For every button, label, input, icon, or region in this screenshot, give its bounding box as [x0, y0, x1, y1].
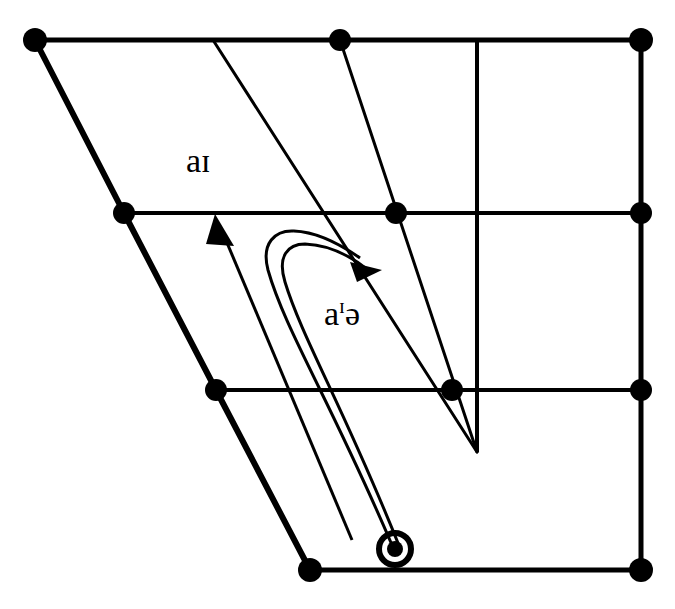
left-edge-segment-2 — [124, 213, 216, 390]
label-triphthong-aie: aɪə — [324, 297, 360, 331]
figure-canvas: aɪ aɪə — [0, 0, 675, 609]
left-edge-segment-1 — [35, 40, 124, 213]
label-diphthong-ai: aɪ — [186, 144, 211, 178]
label-aie-base: a — [324, 295, 339, 332]
target-center-dot-icon — [387, 541, 403, 557]
vertex-dot-top-mid — [329, 29, 351, 51]
vertex-dot-bottom-left — [298, 558, 322, 582]
loop-inner-stroke — [282, 244, 400, 548]
vertex-dot-mid-center — [385, 202, 407, 224]
arrow-straight-offglide — [206, 214, 352, 540]
vertex-dot-mid-left — [113, 202, 135, 224]
vertex-dot-mid-right — [630, 202, 652, 224]
vertex-dot-low-center — [441, 379, 463, 401]
vertex-dot-top-right — [629, 28, 653, 52]
left-edge-segment-3 — [216, 390, 310, 570]
vertex-dot-low-right — [630, 379, 652, 401]
label-aie-tail: ə — [345, 295, 360, 332]
vertex-dot-low-left — [205, 379, 227, 401]
arrow-straight-head — [206, 214, 234, 246]
grid-left-edge — [35, 40, 310, 570]
vertex-dot-top-left — [23, 28, 47, 52]
vertex-dot-bottom-right — [629, 558, 653, 582]
